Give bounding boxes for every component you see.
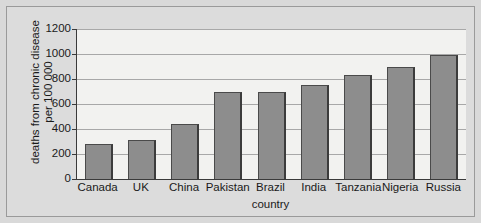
bar bbox=[301, 85, 329, 179]
y-axis-tick-label: 800 bbox=[52, 73, 71, 85]
y-axis-tick-labels: 020040060080010001200 bbox=[35, 29, 71, 179]
bar bbox=[171, 124, 199, 179]
x-axis-tick-label: Canada bbox=[76, 182, 119, 194]
y-axis-tick bbox=[72, 104, 77, 105]
x-axis-tick-label: Nigeria bbox=[379, 182, 422, 194]
bar bbox=[344, 75, 372, 179]
y-axis-title-container: deaths from chronic disease per 100 000 bbox=[17, 29, 35, 179]
y-axis-tick-label: 600 bbox=[52, 98, 71, 110]
bar bbox=[85, 144, 113, 179]
plot-area bbox=[76, 29, 466, 180]
bar bbox=[214, 92, 242, 180]
x-axis-tick-label: Russia bbox=[422, 182, 465, 194]
x-axis-title: country bbox=[76, 198, 465, 210]
y-axis-tick bbox=[72, 179, 77, 180]
x-axis-tick-label: Pakistan bbox=[206, 182, 249, 194]
y-axis-tick bbox=[72, 154, 77, 155]
y-axis-tick bbox=[72, 129, 77, 130]
x-axis-tick-label: China bbox=[162, 182, 205, 194]
figure-frame: deaths from chronic disease per 100 000 … bbox=[6, 6, 475, 217]
x-axis-tick-labels: CanadaUKChinaPakistanBrazilIndiaTanzania… bbox=[76, 182, 465, 198]
chart-figure: deaths from chronic disease per 100 000 … bbox=[0, 0, 481, 223]
y-axis-tick-label: 200 bbox=[52, 148, 71, 160]
x-axis-tick-label: UK bbox=[119, 182, 162, 194]
x-axis-tick-label: Brazil bbox=[249, 182, 292, 194]
bar bbox=[128, 140, 156, 179]
y-axis-tick-label: 400 bbox=[52, 123, 71, 135]
y-axis-tick bbox=[72, 79, 77, 80]
x-axis-tick-label: Tanzania bbox=[335, 182, 378, 194]
x-axis-tick-label: India bbox=[292, 182, 335, 194]
y-axis-tick bbox=[72, 54, 77, 55]
y-axis-tick bbox=[72, 29, 77, 30]
gridline bbox=[77, 29, 466, 30]
gridline bbox=[77, 54, 466, 55]
bar bbox=[258, 92, 286, 180]
y-axis-tick-label: 0 bbox=[65, 173, 71, 185]
y-axis-tick-label: 1200 bbox=[45, 23, 71, 35]
bar bbox=[387, 67, 415, 179]
y-axis-tick-label: 1000 bbox=[45, 48, 71, 60]
bar bbox=[430, 55, 458, 179]
